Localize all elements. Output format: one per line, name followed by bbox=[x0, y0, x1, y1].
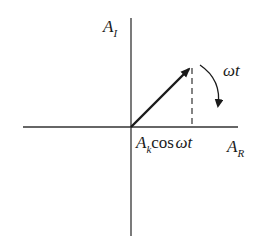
rotation-arrow-icon bbox=[200, 65, 219, 106]
projection-label: Akcos ωt bbox=[136, 134, 192, 155]
vertical-axis-label: AI bbox=[103, 18, 117, 39]
horizontal-axis-label: AR bbox=[227, 138, 244, 159]
phasor-arrow bbox=[131, 69, 189, 127]
rotation-label: ωt bbox=[223, 62, 240, 79]
phasor-diagram bbox=[0, 0, 255, 248]
